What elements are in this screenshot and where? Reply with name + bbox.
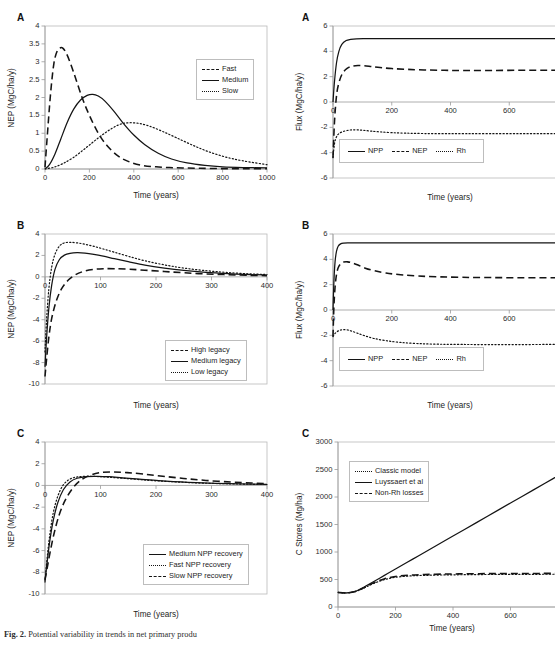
line-style-dotted-icon	[355, 467, 372, 474]
y-tick-label: 0	[35, 480, 39, 489]
plot-right-a: -6-4-202460200400600 Time (years) Flux (…	[280, 4, 555, 209]
legend-item: Medium	[202, 74, 248, 85]
legend-item: NEP	[392, 354, 427, 364]
legend-item: NPP	[348, 146, 383, 156]
y-tick-label: 2	[323, 280, 327, 289]
xaxis-title-right-a: Time (years)	[427, 193, 473, 202]
y-tick-label: 1500	[316, 520, 333, 529]
legend-left-a: Fast Medium Slow	[196, 59, 254, 100]
panel-left-c: C -10-8-6-4-20240100200300400 Time (year…	[0, 420, 280, 628]
legend-label: NPP	[368, 355, 383, 362]
line-style-solid-icon	[171, 357, 188, 364]
x-tick-label: 600	[503, 314, 516, 323]
y-tick-label: -6	[33, 336, 40, 345]
legend-right-b: NPP NEP Rh	[339, 347, 484, 371]
legend-item: Rh	[436, 354, 465, 364]
x-tick-label: 600	[172, 173, 185, 182]
y-tick-label: 0	[323, 97, 327, 106]
y-tick-label: 2.5	[29, 75, 40, 84]
legend-label: Fast	[222, 65, 236, 72]
x-tick-label: 300	[205, 281, 218, 290]
line-style-dotted-icon	[202, 87, 219, 94]
legend-label: Medium legacy	[191, 357, 241, 364]
legend-item: Fast NPP recovery	[149, 559, 243, 570]
y-tick-label: -10	[29, 379, 40, 388]
y-tick-label: 4	[35, 229, 39, 238]
line-style-dotted-icon	[149, 561, 166, 568]
y-tick-label: 0	[35, 164, 39, 173]
y-tick-label: 2	[323, 72, 327, 81]
x-tick-label: 600	[504, 611, 517, 620]
y-tick-label: -2	[33, 293, 40, 302]
y-tick-label: 1000	[316, 547, 333, 556]
legend-label: NEP	[412, 355, 427, 362]
legend-item: NPP	[348, 354, 383, 364]
yaxis-title-left-a: NEP (MgC/ha/y)	[7, 68, 16, 128]
x-tick-label: 200	[150, 490, 163, 499]
legend-label: Rh	[456, 147, 465, 154]
plot-right-b: -6-4-202460200400600 Time (years) Flux (…	[280, 212, 555, 417]
y-tick-label: -2	[33, 502, 40, 511]
plot-svg-left-c: -10-8-6-4-20240100200300400 Time (years)…	[0, 420, 280, 628]
figure-caption-label: Fig. 2.	[4, 630, 26, 639]
plot-right-c: 0500100015002000250030000200400600 Time …	[280, 420, 555, 640]
plot-left-b: -10-8-6-4-20240100200300400 Time (years)…	[0, 212, 280, 417]
xaxis-title-right-c: Time (years)	[429, 624, 475, 633]
y-tick-label: 2000	[316, 492, 333, 501]
y-tick-label: -6	[321, 381, 328, 390]
x-tick-label: 100	[94, 490, 107, 499]
legend-label: Rh	[456, 355, 465, 362]
y-tick-label: 1	[35, 128, 39, 137]
x-tick-label: 400	[261, 490, 274, 499]
y-tick-label: 4	[323, 46, 327, 55]
line-style-solid-icon	[348, 356, 365, 363]
line-style-dashed-icon	[355, 489, 372, 496]
line-style-solid-icon	[348, 148, 365, 155]
legend-item: Fast	[202, 63, 248, 74]
x-tick-label: 0	[43, 281, 47, 290]
y-tick-label: 3000	[316, 437, 333, 446]
y-tick-label: -2	[321, 122, 328, 131]
x-tick-label: 400	[447, 611, 460, 620]
x-tick-label: 200	[385, 314, 398, 323]
y-tick-label: 0.5	[29, 146, 40, 155]
legend-item: Slow	[202, 85, 248, 96]
x-tick-label: 1000	[259, 173, 276, 182]
yaxis-title-left-b: NEP (MgC/ha/y)	[7, 279, 16, 339]
panel-left-b: B -10-8-6-4-20240100200300400 Time (year…	[0, 212, 280, 417]
xaxis-title-left-b: Time (years)	[133, 401, 179, 410]
legend-label: Medium	[222, 76, 248, 83]
legend-item: NEP	[392, 146, 427, 156]
y-tick-label: 4	[35, 21, 39, 30]
y-tick-label: 4	[35, 437, 39, 446]
x-tick-label: 0	[43, 173, 47, 182]
plot-svg-right-b: -6-4-202460200400600 Time (years) Flux (…	[280, 212, 555, 417]
plot-svg-left-b: -10-8-6-4-20240100200300400 Time (years)…	[0, 212, 280, 417]
y-tick-label: -4	[321, 148, 328, 157]
y-tick-label: 2	[35, 250, 39, 259]
y-tick-label: -4	[321, 356, 328, 365]
legend-left-c: Medium NPP recovery Fast NPP recovery Sl…	[143, 544, 249, 585]
legend-label: High legacy	[191, 346, 230, 353]
x-tick-label: 600	[503, 106, 516, 115]
plot-svg-right-c: 0500100015002000250030000200400600 Time …	[280, 420, 555, 640]
y-tick-label: -6	[33, 546, 40, 555]
figure-panel-grid: A 00.511.522.533.5402004006008001000 Tim…	[0, 0, 555, 645]
legend-item: Rh	[436, 146, 465, 156]
xaxis-title-left-c: Time (years)	[133, 610, 179, 619]
legend-right-a: NPP NEP Rh	[339, 139, 484, 163]
legend-item: High legacy	[171, 344, 241, 355]
yaxis-title-left-c: NEP (MgC/ha/y)	[7, 488, 16, 548]
line-style-solid-icon	[149, 550, 166, 557]
y-tick-label: -2	[321, 330, 328, 339]
line-style-solid-icon	[202, 76, 219, 83]
x-tick-label: 0	[336, 611, 340, 620]
legend-label: Low legacy	[191, 368, 228, 375]
xaxis-title-left-a: Time (years)	[133, 191, 179, 200]
x-tick-label: 200	[83, 173, 96, 182]
y-tick-label: -10	[29, 589, 40, 598]
x-tick-label: 800	[216, 173, 229, 182]
y-tick-label: 2	[35, 93, 39, 102]
legend-item: Medium NPP recovery	[149, 548, 243, 559]
y-tick-label: 3.5	[29, 39, 40, 48]
